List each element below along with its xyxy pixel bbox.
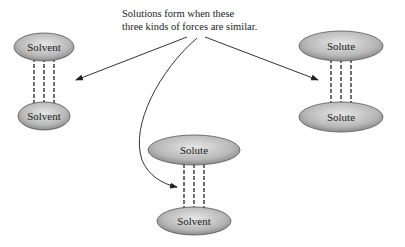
right-top-solute: Solute [299,31,383,61]
middle-bottom-solvent: Solvent [157,207,231,235]
left-bottom-solvent: Solvent [18,102,70,130]
label: Solvent [27,110,61,122]
right-force-lines [331,59,351,103]
middle-top-solute: Solute [148,135,240,165]
caption-line-2: three kinds of forces are similar. [122,21,257,32]
left-top-solvent: Solvent [14,33,74,61]
label: Solvent [27,41,61,53]
left-force-lines [34,58,54,104]
middle-force-lines [184,164,204,208]
forces-diagram: Solutions form when these three kinds of… [0,0,405,247]
label: Solute [327,40,355,52]
arrow-to-solvent-solvent [76,37,187,80]
caption-line-1: Solutions form when these [122,8,235,19]
label: Solute [180,144,208,156]
right-bottom-solute: Solute [299,102,383,132]
label: Solvent [177,215,211,227]
label: Solute [327,111,355,123]
